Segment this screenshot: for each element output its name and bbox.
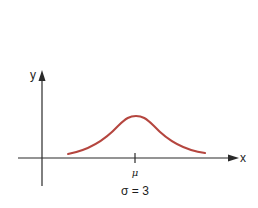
- x-axis: [18, 155, 239, 162]
- normal-curve-diagram: x y μ σ = 3: [0, 0, 258, 208]
- sigma-label: σ = 3: [121, 184, 149, 198]
- y-axis-arrow-icon: [39, 70, 46, 81]
- y-axis-label: y: [30, 68, 36, 82]
- y-axis: [39, 70, 46, 186]
- x-axis-label: x: [240, 151, 246, 165]
- bell-curve: [68, 116, 205, 154]
- mean-label: μ: [132, 167, 139, 178]
- x-axis-arrow-icon: [228, 155, 239, 162]
